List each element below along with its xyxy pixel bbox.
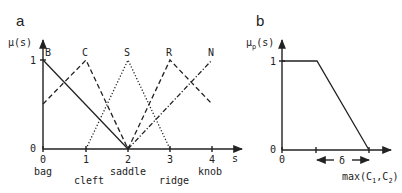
panel-b-label: b [256, 12, 264, 29]
category-saddle: saddle [110, 166, 146, 177]
category-cleft: cleft [74, 175, 104, 186]
x-tick-label-3: 3 [167, 154, 173, 165]
category-bag: bag [34, 166, 52, 177]
curve-b-bag [43, 60, 128, 149]
panel-a: a μ(s) 1 0 0 1 2 3 4 s bag cleft saddle … [8, 12, 242, 186]
series-label-n: N [208, 47, 214, 58]
y-tick-label-1: 1 [30, 55, 36, 66]
series-label-b: B [45, 47, 51, 58]
curve-n-knob [128, 60, 212, 149]
x-tick-label-0: 0 [279, 154, 285, 165]
y-axis-label: μp(s) [246, 37, 274, 51]
figure: a μ(s) 1 0 0 1 2 3 4 s bag cleft saddle … [0, 0, 402, 193]
x-tick-label-2: 2 [125, 154, 131, 165]
x-axis-label: max(C1,C2) [342, 171, 399, 185]
series-label-s: S [124, 47, 130, 58]
panel-b: b μp(s) 1 0 0 δ max(C1,C2) [246, 12, 399, 185]
y-tick-label-1: 1 [270, 56, 276, 67]
x-tick-label-4: 4 [209, 154, 215, 165]
x-tick-label-0: 0 [40, 154, 46, 165]
y-tick-label-0: 0 [270, 144, 276, 155]
panel-a-label: a [16, 12, 25, 29]
x-tick-label-1: 1 [83, 154, 89, 165]
x-axis-label: s [232, 153, 238, 164]
curve-s-saddle [86, 60, 170, 149]
category-ridge: ridge [159, 175, 189, 186]
y-axis-label: μ(s) [8, 37, 32, 48]
category-knob: knob [198, 166, 222, 177]
series-label-r: R [166, 47, 173, 58]
delta-label: δ [339, 155, 345, 166]
y-tick-label-0: 0 [30, 143, 36, 154]
series-label-c: C [82, 47, 88, 58]
curve-mu-p [282, 61, 369, 150]
